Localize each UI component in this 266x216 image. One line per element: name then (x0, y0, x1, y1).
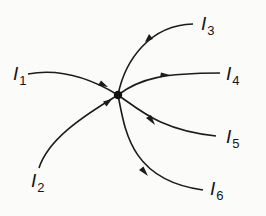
arrow-icon-i6 (139, 167, 148, 177)
wire-i1 (28, 72, 118, 95)
label-i1: I1 (13, 63, 27, 88)
label-i4: I4 (226, 63, 240, 88)
current-i2: I2 (31, 95, 118, 195)
arrow-icon-i2 (103, 99, 112, 107)
current-i3: I3 (118, 13, 215, 95)
arrow-icon-i1 (98, 81, 108, 88)
current-i5: I5 (118, 95, 240, 151)
label-i3: I3 (201, 13, 215, 38)
current-i1: I1 (13, 63, 118, 95)
junction-node (114, 91, 122, 99)
label-i2: I2 (31, 170, 45, 195)
wire-i3 (118, 24, 193, 95)
wire-i4 (118, 73, 220, 95)
label-i6: I6 (210, 178, 224, 203)
current-i6: I6 (118, 95, 224, 203)
wire-i5 (118, 95, 216, 136)
arrow-icon-i5 (146, 115, 155, 125)
kcl-node-diagram: I1 I2 I3 I4 I5 I6 (0, 0, 266, 216)
current-i4: I4 (118, 63, 240, 95)
label-i5: I5 (226, 126, 240, 151)
wire-i6 (118, 95, 203, 190)
